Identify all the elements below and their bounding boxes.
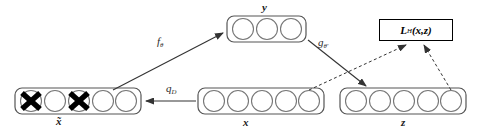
unit-circle	[204, 91, 225, 112]
unit-circle	[441, 91, 462, 112]
layer-label-x-tilde: x̃	[56, 116, 62, 127]
unit-circle	[257, 19, 278, 40]
edge-label-decode: gθ'	[318, 37, 328, 49]
edge-label-encode-subscript: θ	[160, 41, 163, 48]
unit-circle	[45, 91, 66, 112]
edge-label-corruption: qD	[166, 83, 176, 95]
diagram-canvas: LH(x,z) y x̃ x z fθ gθ' qD	[0, 0, 479, 137]
unit-circle	[299, 91, 320, 112]
unit-circle	[370, 91, 391, 112]
layer-box-z	[340, 88, 466, 114]
unit-circle	[116, 91, 137, 112]
unit-circle	[228, 91, 249, 112]
edge-label-decode-subscript: θ'	[324, 42, 329, 49]
loss-node: LH(x,z)	[379, 19, 453, 41]
unit-circle	[346, 91, 367, 112]
loss-symbol: L	[400, 24, 407, 36]
layer-box-y	[227, 16, 306, 42]
unit-circle	[281, 19, 302, 40]
edge-loss-from-z	[424, 45, 451, 90]
layer-label-z: z	[401, 117, 405, 128]
layer-box-x	[198, 88, 324, 114]
unit-circle	[418, 91, 439, 112]
edge-label-corruption-subscript: D	[172, 88, 177, 95]
unit-circle	[276, 91, 297, 112]
loss-args: (x,z)	[412, 24, 432, 36]
unit-circle	[233, 19, 254, 40]
layer-box-x-tilde	[15, 88, 141, 114]
unit-circle	[93, 91, 114, 112]
unit-circle	[394, 91, 415, 112]
layer-label-x: x	[243, 117, 249, 128]
unit-circle	[252, 91, 273, 112]
layer-label-y: y	[262, 2, 267, 13]
edge-label-encode: fθ	[157, 36, 163, 48]
edge-decode	[308, 40, 366, 86]
